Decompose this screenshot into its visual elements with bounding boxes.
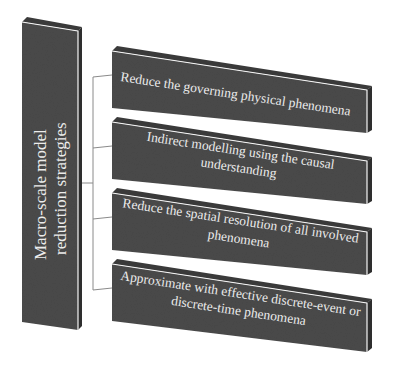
strategy-box-3: Reduce the spatial resolution of all inv…: [112, 188, 372, 275]
box-4-side: [367, 299, 372, 352]
strategy-diagram: Macro-scale model reduction strategies R…: [0, 0, 393, 374]
box-2-side: [367, 157, 372, 204]
root-label-line2: reduction strategies: [51, 122, 70, 255]
strategy-box-1: Reduce the governing physical phenomena: [112, 46, 372, 133]
strategy-box-2: Indirect modelling using the causal unde…: [112, 117, 372, 204]
connector-branch-1: [93, 75, 112, 77]
box-1-side: [367, 86, 372, 133]
connector-branch-2: [93, 146, 112, 148]
connector-tree: [82, 75, 112, 290]
root-label-line1: Macro-scale model: [31, 129, 50, 260]
connector-branch-4: [93, 288, 112, 290]
connector-branch-3: [93, 217, 112, 219]
box-3-side: [367, 228, 372, 275]
root-pillar: Macro-scale model reduction strategies: [22, 17, 82, 330]
strategy-box-4: Approximate with effective discrete-even…: [112, 259, 372, 352]
